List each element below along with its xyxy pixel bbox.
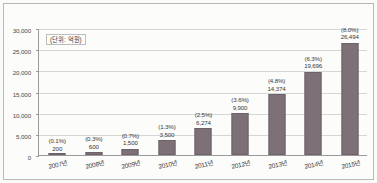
bar[interactable]: [341, 43, 358, 155]
bar-amount-label: 600: [85, 143, 102, 151]
bar-amount-label: 200: [49, 145, 66, 153]
bar-share-label: (8.0%): [341, 26, 359, 34]
bar-group: (8.0%)26,4942015년: [331, 29, 368, 155]
bar-chart-figure: (단위: 억원) 05,00010,00015,00020,00025,0003…: [0, 0, 377, 183]
y-axis-tick-label: 30,000: [13, 27, 31, 34]
bar-value-label: (2.5%)6,274: [195, 111, 212, 126]
bar-value-label: (0.3%)600: [85, 135, 102, 150]
bar-group: (0.3%)6002008년: [76, 29, 113, 155]
bar-group: (1.3%)3,5002010년: [149, 29, 186, 155]
bars-layer: (0.1%)2002007년(0.3%)6002008년(0.7%)1,5002…: [39, 29, 367, 155]
y-axis-tick-label: 20,000: [13, 69, 31, 76]
bar-amount-label: 14,374: [268, 85, 286, 93]
bar-value-label: (8.0%)26,494: [341, 26, 359, 41]
bar-amount-label: 9,900: [231, 104, 248, 112]
bar-amount-label: 19,696: [304, 62, 322, 70]
bar-group: (3.6%)9,9002012년: [222, 29, 259, 155]
bar-share-label: (6.3%): [304, 55, 322, 63]
bar-share-label: (0.7%): [122, 132, 139, 140]
bar-group: (4.8%)14,3742013년: [258, 29, 295, 155]
bar-value-label: (6.3%)19,696: [304, 55, 322, 70]
bar-share-label: (3.6%): [231, 96, 248, 104]
y-axis-tick-label: 25,000: [13, 48, 31, 55]
bar-amount-label: 26,494: [341, 33, 359, 41]
bar-value-label: (0.7%)1,500: [122, 132, 139, 147]
bar[interactable]: [195, 128, 212, 155]
bar-share-label: (1.3%): [158, 123, 175, 131]
y-axis-tick-label: 0: [28, 154, 31, 161]
bar-share-label: (4.8%): [268, 77, 286, 85]
bar-amount-label: 6,274: [195, 119, 212, 127]
bar[interactable]: [232, 113, 249, 155]
y-axis-tick-label: 15,000: [13, 90, 31, 97]
bar-value-label: (0.1%)200: [49, 137, 66, 152]
plot-area: (단위: 억원) 05,00010,00015,00020,00025,0003…: [38, 29, 367, 156]
bar-amount-label: 3,500: [158, 131, 175, 139]
bar[interactable]: [122, 149, 139, 155]
bar-group: (2.5%)6,2742011년: [185, 29, 222, 155]
bar-value-label: (3.6%)9,900: [231, 96, 248, 111]
bar-value-label: (4.8%)14,374: [268, 77, 286, 92]
bar-amount-label: 1,500: [122, 139, 139, 147]
bar[interactable]: [268, 94, 285, 155]
y-axis-tick: 0: [36, 156, 39, 157]
bar[interactable]: [49, 153, 66, 155]
bar[interactable]: [305, 72, 322, 155]
bar[interactable]: [158, 140, 175, 155]
bar-group: (6.3%)19,6962014년: [295, 29, 332, 155]
bar-share-label: (0.3%): [85, 135, 102, 143]
bar[interactable]: [85, 152, 102, 155]
y-axis-tick-label: 5,000: [16, 132, 31, 139]
y-axis-tick-label: 10,000: [13, 111, 31, 118]
bar-group: (0.1%)2002007년: [39, 29, 76, 155]
bar-share-label: (2.5%): [195, 111, 212, 119]
bar-share-label: (0.1%): [49, 137, 66, 145]
bar-value-label: (1.3%)3,500: [158, 123, 175, 138]
bar-group: (0.7%)1,5002009년: [112, 29, 149, 155]
